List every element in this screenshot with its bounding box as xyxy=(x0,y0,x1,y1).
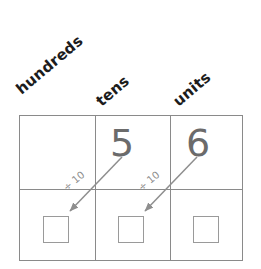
column-header-tens: tens xyxy=(92,72,133,110)
answer-box-tens[interactable] xyxy=(118,216,144,243)
column-header-units: units xyxy=(169,68,214,110)
column-header-hundreds: hundreds xyxy=(12,32,86,98)
worksheet-canvas: hundreds tens units 5 6 ÷ 10 ÷ 10 xyxy=(0,0,261,269)
column-divider-1 xyxy=(95,116,96,260)
digit-units: 6 xyxy=(186,124,210,162)
digit-tens: 5 xyxy=(110,124,134,162)
answer-box-units[interactable] xyxy=(193,216,219,243)
column-divider-2 xyxy=(170,116,171,260)
answer-box-hundreds[interactable] xyxy=(43,216,69,243)
row-divider xyxy=(20,189,242,190)
